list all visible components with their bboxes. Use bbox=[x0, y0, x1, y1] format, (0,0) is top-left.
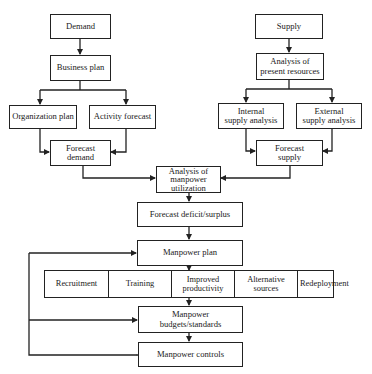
action-alternative-line1: Alternative bbox=[247, 275, 285, 285]
internal-supply-line2: supply analysis bbox=[225, 116, 278, 126]
forecast-demand-line2: demand bbox=[67, 153, 94, 163]
forecast-demand-box: Forecast demand bbox=[50, 140, 111, 166]
manpower-plan-box: Manpower plan bbox=[137, 240, 243, 266]
action-training-label: Training bbox=[126, 279, 155, 289]
action-recruitment: Recruitment bbox=[45, 271, 109, 297]
arrow-activity-to-forecast-demand bbox=[111, 128, 126, 152]
external-supply-analysis-box: External supply analysis bbox=[296, 103, 362, 129]
action-alternative-line2: sources bbox=[253, 284, 278, 294]
demand-label: Demand bbox=[66, 22, 95, 32]
forecast-supply-line2: supply bbox=[278, 153, 301, 163]
manpower-controls-box: Manpower controls bbox=[138, 342, 243, 367]
action-redeployment: Redeployment bbox=[298, 271, 351, 297]
arrow-org-plan-to-forecast-demand bbox=[40, 128, 49, 152]
activity-forecast-box: Activity forecast bbox=[89, 105, 156, 129]
manpower-controls-label: Manpower controls bbox=[157, 350, 224, 360]
analysis-present-resources-box: Analysis of present resources bbox=[256, 53, 324, 80]
action-improved-productivity: Improved productivity bbox=[172, 271, 235, 297]
action-redeployment-label: Redeployment bbox=[300, 279, 349, 289]
analysis-manpower-line3: utilization bbox=[171, 184, 206, 193]
activity-forecast-label: Activity forecast bbox=[94, 112, 152, 122]
analysis-manpower-utilization-box: Analysis of manpower utilization bbox=[156, 166, 221, 193]
analysis-present-resources-line2: present resources bbox=[260, 67, 319, 77]
arrow-forecast-demand-to-analysis bbox=[83, 165, 155, 178]
manpower-plan-label: Manpower plan bbox=[163, 248, 217, 258]
demand-box: Demand bbox=[50, 14, 111, 39]
action-improved-line2: productivity bbox=[183, 284, 224, 294]
supply-box: Supply bbox=[255, 14, 323, 39]
manpower-budgets-standards-box: Manpower budgets/standards bbox=[138, 306, 243, 333]
business-plan-label: Business plan bbox=[57, 63, 105, 73]
internal-supply-analysis-box: Internal supply analysis bbox=[218, 103, 284, 129]
manpower-actions-row: Recruitment Training Improved productivi… bbox=[44, 270, 334, 298]
forecast-deficit-surplus-box: Forecast deficit/surplus bbox=[137, 202, 243, 227]
action-alternative-sources: Alternative sources bbox=[235, 271, 298, 297]
organization-plan-box: Organization plan bbox=[9, 105, 77, 129]
supply-label: Supply bbox=[277, 22, 301, 32]
action-training: Training bbox=[109, 271, 172, 297]
business-plan-box: Business plan bbox=[50, 55, 111, 81]
forecast-supply-box: Forecast supply bbox=[256, 140, 323, 166]
arrow-forecast-supply-to-analysis bbox=[221, 165, 290, 178]
external-supply-line2: supply analysis bbox=[303, 116, 356, 126]
forecast-deficit-surplus-label: Forecast deficit/surplus bbox=[150, 210, 230, 220]
arrow-internal-to-forecast-supply bbox=[246, 128, 255, 151]
action-recruitment-label: Recruitment bbox=[56, 279, 97, 289]
manpower-budgets-line2: budgets/standards bbox=[160, 320, 222, 330]
arrow-external-to-forecast-supply bbox=[323, 128, 332, 151]
feedback-line-controls bbox=[29, 253, 137, 355]
organization-plan-label: Organization plan bbox=[12, 112, 74, 122]
action-improved-line1: Improved bbox=[187, 275, 220, 285]
